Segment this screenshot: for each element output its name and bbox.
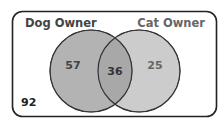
cat-owner-label: Cat Owner <box>137 16 205 30</box>
outside-count: 92 <box>21 96 36 109</box>
cat-only-count: 25 <box>147 59 162 72</box>
dog-owner-label: Dog Owner <box>25 16 97 30</box>
dog-only-count: 57 <box>65 59 80 72</box>
venn-diagram: Dog Owner Cat Owner 57 36 25 92 <box>0 0 224 120</box>
intersection-count: 36 <box>107 65 123 78</box>
